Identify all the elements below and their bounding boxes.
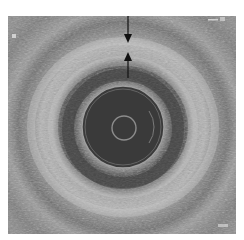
ultrasound-image [8,16,236,234]
ultrasound-svg [8,16,236,234]
orientation-marker [12,34,16,38]
scale-mark-bottom [218,224,228,227]
